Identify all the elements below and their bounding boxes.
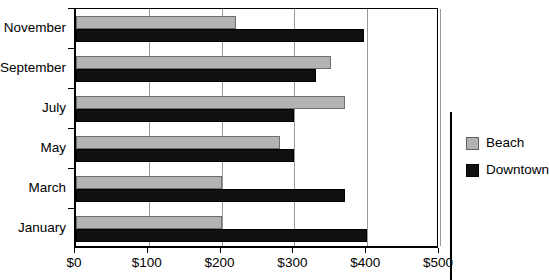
gridline <box>222 9 223 246</box>
bar-downtown-september <box>76 69 316 82</box>
legend-swatch-beach-icon <box>466 137 479 150</box>
x-axis-tick <box>220 248 221 253</box>
legend-divider <box>450 112 452 280</box>
bar-downtown-january <box>76 229 367 242</box>
x-axis-tick-label: $500 <box>423 255 453 270</box>
y-axis-label-september: September <box>0 61 66 75</box>
x-axis-tick-label: $200 <box>205 255 235 270</box>
y-axis-label-january: January <box>18 221 66 235</box>
y-axis-label-march: March <box>28 181 66 195</box>
y-axis-label-july: July <box>42 101 66 115</box>
bar-downtown-may <box>76 149 294 162</box>
legend-label: Beach <box>486 136 524 150</box>
y-axis-tick <box>68 88 74 89</box>
x-axis-tick-label: $400 <box>350 255 380 270</box>
x-axis-tick <box>365 248 366 253</box>
legend-item-beach[interactable]: Beach <box>466 136 549 150</box>
bar-beach-march <box>76 176 222 189</box>
x-axis-tick-label: $0 <box>66 255 81 270</box>
x-axis-tick-label: $300 <box>277 255 307 270</box>
bar-downtown-march <box>76 189 345 202</box>
gridline <box>440 9 441 246</box>
x-axis-tick-label: $100 <box>132 255 162 270</box>
x-axis-tick <box>74 248 75 253</box>
gridline <box>294 9 295 246</box>
bar-beach-september <box>76 56 331 69</box>
bar-beach-november <box>76 16 236 29</box>
bar-beach-july <box>76 96 345 109</box>
y-axis-label-november: November <box>4 21 66 35</box>
x-axis-tick <box>292 248 293 253</box>
bar-beach-may <box>76 136 280 149</box>
gridline <box>367 9 368 246</box>
legend-item-downtown[interactable]: Downtown <box>466 163 549 177</box>
legend-swatch-downtown-icon <box>466 164 479 177</box>
chart-legend: BeachDowntown <box>466 136 549 190</box>
y-axis-tick <box>68 48 74 49</box>
bar-downtown-november <box>76 29 364 42</box>
bar-beach-january <box>76 216 222 229</box>
legend-label: Downtown <box>486 163 549 177</box>
y-axis-tick <box>68 208 74 209</box>
gridline <box>149 9 150 246</box>
y-axis-label-may: May <box>40 141 66 155</box>
y-axis-tick <box>68 8 74 9</box>
y-axis-tick <box>68 168 74 169</box>
y-axis-tick <box>68 128 74 129</box>
x-axis-tick <box>147 248 148 253</box>
bar-downtown-july <box>76 109 294 122</box>
plot-area <box>74 8 438 248</box>
x-axis-tick <box>438 248 439 253</box>
